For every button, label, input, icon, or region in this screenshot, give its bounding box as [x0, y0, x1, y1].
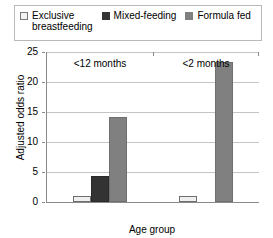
legend-label-exclusive-breastfeeding: Exclusive breastfeeding — [32, 10, 93, 32]
legend-label-formula-fed: Formula fed — [197, 10, 250, 21]
x-axis-tick-label: <12 months — [74, 58, 127, 69]
plot-area: <12 months<2 months — [46, 52, 259, 203]
exclusive-breastfeeding-swatch-icon — [20, 12, 28, 20]
y-axis-tick-mark — [42, 142, 45, 143]
y-axis-tick-label: 10 — [27, 137, 38, 147]
y-axis-tick-mark — [42, 112, 45, 113]
x-axis-tick-mark — [258, 52, 259, 56]
y-axis-tick-mark — [42, 202, 45, 203]
formula-fed-swatch-icon — [185, 12, 193, 20]
y-axis-tick-mark — [42, 82, 45, 83]
plot-area-wrapper: Adjusted odds ratio 0510152025 <12 month… — [0, 46, 273, 238]
legend-item-formula-fed: Formula fed — [185, 10, 250, 21]
bar-group-bars — [47, 52, 153, 202]
x-axis-title: Age group — [46, 224, 258, 235]
bar-group-bars — [153, 52, 259, 202]
y-axis-tick-label: 5 — [32, 167, 38, 177]
bar-exclusive — [73, 196, 91, 202]
bar-group — [153, 52, 259, 202]
mixed-feeding-swatch-icon — [102, 12, 110, 20]
x-axis-tick-label: <2 months — [183, 58, 230, 69]
legend-row: Exclusive breastfeeding Mixed-feeding Fo… — [20, 10, 256, 32]
bar-exclusive — [179, 196, 197, 202]
legend-item-mixed-feeding: Mixed-feeding — [102, 10, 177, 21]
y-axis-tick-mark — [42, 52, 45, 53]
bar-group — [47, 52, 153, 202]
chart-legend: Exclusive breastfeeding Mixed-feeding Fo… — [14, 5, 262, 41]
bar-mixed — [91, 176, 109, 202]
y-axis-tick-labels: 0510152025 — [16, 52, 42, 202]
y-axis-tick-label: 25 — [27, 47, 38, 57]
x-axis-tick-mark — [153, 52, 154, 56]
y-axis-tick-mark — [42, 172, 45, 173]
legend-item-exclusive-breastfeeding: Exclusive breastfeeding — [20, 10, 93, 32]
bar-chart-figure: Exclusive breastfeeding Mixed-feeding Fo… — [0, 0, 273, 238]
bar-formula — [215, 62, 233, 202]
y-axis-tick-label: 15 — [27, 107, 38, 117]
bar-formula — [109, 117, 127, 202]
y-axis-tick-label: 20 — [27, 77, 38, 87]
y-axis-tick-label: 0 — [32, 197, 38, 207]
legend-label-mixed-feeding: Mixed-feeding — [114, 10, 177, 21]
